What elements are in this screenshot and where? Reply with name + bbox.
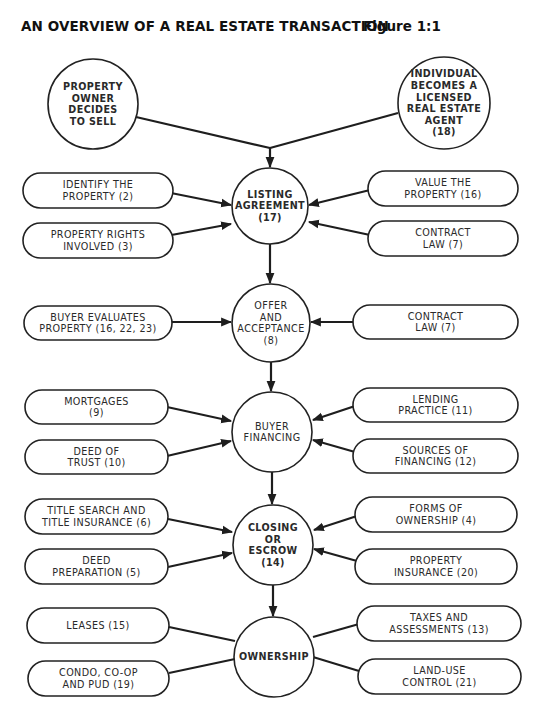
- node-label-line: PROPERTY: [63, 81, 123, 92]
- topic-box-identify-the-property: IDENTIFY THEPROPERTY (2): [23, 173, 173, 208]
- topic-box-lending-practice: LENDINGPRACTICE (11): [353, 388, 518, 422]
- node-label-line: DECIDES: [68, 104, 117, 115]
- node-label-line: DEED OF: [74, 446, 120, 457]
- node-label-line: CLOSING: [248, 522, 298, 533]
- stage-circle-offer-and-acceptance: OFFERANDACCEPTANCE(8): [232, 284, 310, 362]
- node-label-line: TITLE SEARCH AND: [46, 505, 145, 516]
- topic-box-sources-of-financing: SOURCES OFFINANCING (12): [353, 439, 518, 473]
- node-label-line: LENDING: [412, 394, 458, 405]
- stage-circle-ownership: OWNERSHIP: [234, 617, 314, 697]
- node-label-line: LEASES (15): [66, 620, 129, 631]
- topic-box-mortgages: MORTGAGES(9): [25, 390, 168, 424]
- node-label-line: SOURCES OF: [403, 445, 469, 456]
- node-label-line: BECOMES A: [411, 80, 478, 91]
- node-label-line: LAW (7): [415, 322, 456, 333]
- node-label-line: (14): [261, 557, 285, 568]
- arrow-connector: [167, 407, 231, 421]
- node-label-line: ASSESSMENTS (13): [389, 624, 489, 635]
- topic-box-forms-of-ownership: FORMS OFOWNERSHIP (4): [355, 497, 517, 532]
- node-label-line: (9): [89, 407, 104, 418]
- line-connector: [169, 659, 235, 673]
- topic-box-property-rights-involved: PROPERTY RIGHTSINVOLVED (3): [23, 223, 173, 258]
- node-label-line: (18): [432, 126, 456, 137]
- node-label-line: CONDO, CO-OP: [59, 667, 138, 678]
- node-label-line: TRUST (10): [66, 457, 125, 468]
- node-label-line: BUYER EVALUATES: [50, 312, 146, 323]
- node-label-line: FINANCING (12): [395, 456, 477, 467]
- node-label-line: ACCEPTANCE: [237, 323, 304, 334]
- arrow-connector: [314, 516, 357, 530]
- stage-circle-property-owner-decides-to-sell: PROPERTYOWNERDECIDESTO SELL: [48, 59, 138, 149]
- node-label-line: CONTRACT: [408, 311, 464, 322]
- node-label-line: LICENSED: [416, 92, 472, 103]
- node-label-line: FINANCING: [243, 432, 300, 443]
- topic-box-property-insurance: PROPERTYINSURANCE (20): [355, 549, 517, 584]
- node-label-line: CONTRACT: [415, 227, 471, 238]
- topic-box-deed-preparation: DEEDPREPARATION (5): [25, 549, 168, 584]
- topic-box-taxes-and-assessments: TAXES ANDASSESSMENTS (13): [357, 606, 521, 641]
- node-label-line: PROPERTY (16): [404, 189, 481, 200]
- arrow-connector: [166, 224, 231, 236]
- node-label-line: FORMS OF: [409, 503, 462, 514]
- node-label-line: AGREEMENT: [235, 200, 305, 211]
- arrow-connector: [314, 549, 357, 561]
- topic-box-buyer-evaluates-property: BUYER EVALUATESPROPERTY (16, 22, 23): [24, 306, 172, 340]
- topic-box-contract-law-offer: CONTRACTLAW (7): [353, 305, 518, 339]
- node-label-line: PROPERTY (2): [63, 191, 134, 202]
- arrow-connector: [309, 222, 370, 235]
- transaction-flow-diagram: IDENTIFY THEPROPERTY (2)PROPERTY RIGHTSI…: [0, 0, 546, 717]
- node-label-line: OWNERSHIP (4): [396, 515, 477, 526]
- line-connector: [169, 627, 235, 641]
- node-label-line: PROPERTY: [410, 555, 463, 566]
- arrow-connector: [167, 441, 231, 456]
- node-label-line: TITLE INSURANCE (6): [41, 517, 151, 528]
- node-label-line: INVOLVED (3): [63, 241, 133, 252]
- topic-box-condo-co-op-and-pud: CONDO, CO-OPAND PUD (19): [28, 661, 169, 696]
- node-label-line: LISTING: [247, 189, 292, 200]
- node-label-line: AND PUD (19): [63, 679, 135, 690]
- node-label-line: (8): [264, 335, 279, 346]
- line-connector: [136, 117, 270, 148]
- arrow-connector: [313, 440, 355, 452]
- node-label-line: PROPERTY RIGHTS: [51, 229, 146, 240]
- node-label-line: INDIVIDUAL: [410, 68, 477, 79]
- node-label-line: LAND-USE: [413, 665, 466, 676]
- topic-box-title-search-and-title-insurance: TITLE SEARCH ANDTITLE INSURANCE (6): [25, 499, 168, 534]
- stage-circle-individual-becomes-licensed-agent: INDIVIDUALBECOMES ALICENSEDREAL ESTATEAG…: [398, 57, 490, 149]
- node-label-line: OR: [265, 534, 282, 545]
- node-label-line: OFFER: [254, 300, 287, 311]
- node-label-line: DEED: [82, 555, 111, 566]
- node-label-line: PREPARATION (5): [52, 567, 140, 578]
- topic-box-value-the-property: VALUE THEPROPERTY (16): [368, 171, 518, 206]
- node-label-line: OWNERSHIP: [239, 651, 309, 662]
- topic-box-deed-of-trust: DEED OFTRUST (10): [25, 440, 168, 474]
- node-label-line: VALUE THE: [415, 177, 471, 188]
- topic-box-leases: LEASES (15): [27, 608, 169, 643]
- stage-circle-closing-or-escrow: CLOSINGORESCROW(14): [233, 505, 313, 585]
- line-connector: [313, 657, 359, 671]
- node-label-line: TAXES AND: [409, 612, 468, 623]
- node-label-line: LAW (7): [423, 239, 464, 250]
- line-connector: [313, 624, 359, 637]
- arrow-connector: [168, 519, 232, 532]
- node-label-line: TO SELL: [70, 116, 117, 127]
- line-connector: [270, 113, 398, 148]
- node-label-line: OWNER: [72, 93, 115, 104]
- arrow-connector: [309, 190, 370, 205]
- node-label-line: IDENTIFY THE: [63, 179, 134, 190]
- node-label-line: AND: [260, 312, 282, 323]
- arrow-connector: [166, 192, 231, 205]
- node-label-line: PRACTICE (11): [398, 405, 473, 416]
- node-label-line: REAL ESTATE: [407, 103, 481, 114]
- node-label-line: INSURANCE (20): [394, 567, 478, 578]
- node-label-line: PROPERTY (16, 22, 23): [39, 323, 156, 334]
- arrow-connector: [313, 406, 355, 420]
- topic-box-land-use-control: LAND-USECONTROL (21): [358, 659, 521, 694]
- node-label-line: (17): [258, 212, 282, 223]
- node-label-line: BUYER: [255, 421, 289, 432]
- node-label-line: ESCROW: [248, 545, 297, 556]
- topic-box-contract-law-listing: CONTRACTLAW (7): [368, 221, 518, 256]
- arrow-connector: [168, 553, 232, 567]
- node-label-line: AGENT: [425, 115, 463, 126]
- stage-circle-listing-agreement: LISTINGAGREEMENT(17): [232, 168, 308, 244]
